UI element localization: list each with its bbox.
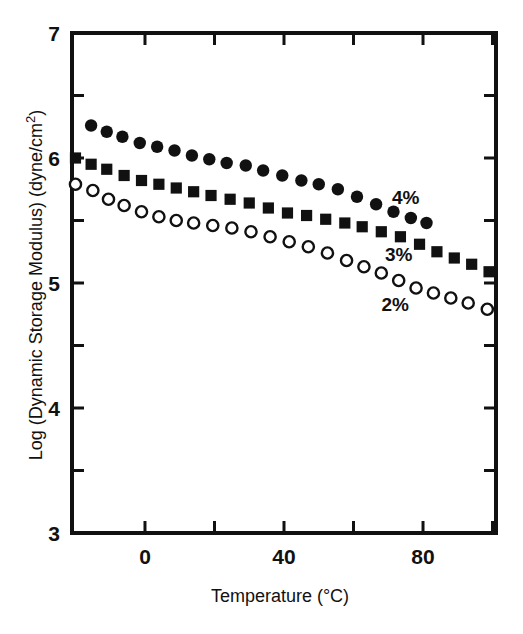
- data-point-filled-circle: [405, 212, 417, 224]
- data-point-filled-square: [86, 159, 97, 170]
- data-point-filled-square: [205, 190, 216, 201]
- data-point-open-circle: [87, 185, 98, 196]
- data-point-filled-circle: [332, 183, 344, 195]
- data-point-open-circle: [428, 287, 439, 298]
- data-point-filled-circle: [370, 198, 382, 210]
- data-point-open-circle: [153, 211, 164, 222]
- y-axis-title: Log (Dynamic Storage Modulus) (dyne/cm2): [23, 110, 46, 460]
- data-point-filled-square: [282, 207, 293, 218]
- data-point-open-circle: [393, 275, 404, 286]
- data-point-open-circle: [303, 241, 314, 252]
- x-tick-label: 80: [411, 545, 434, 568]
- x-tick-label: 40: [272, 545, 295, 568]
- data-point-filled-square: [225, 194, 236, 205]
- data-point-filled-square: [153, 179, 164, 190]
- data-point-filled-square: [449, 252, 460, 263]
- data-point-filled-square: [136, 175, 147, 186]
- data-point-open-circle: [376, 267, 387, 278]
- data-point-filled-square: [414, 239, 425, 250]
- data-point-filled-circle: [134, 137, 146, 149]
- data-point-filled-square: [431, 246, 442, 257]
- label-4-percent: 4%: [392, 187, 420, 208]
- data-point-filled-square: [244, 197, 255, 208]
- data-point-open-circle: [284, 236, 295, 247]
- data-point-open-circle: [482, 304, 493, 315]
- y-tick-label: 7: [48, 22, 60, 45]
- data-point-open-circle: [70, 179, 81, 190]
- y-axis-title-group: Log (Dynamic Storage Modulus) (dyne/cm2): [23, 110, 46, 460]
- chart-figure: 04080 76543 4%3%2% Temperature (°C) Log …: [0, 0, 523, 634]
- data-point-filled-circle: [313, 178, 325, 190]
- data-point-open-circle: [341, 255, 352, 266]
- data-point-filled-square: [171, 182, 182, 193]
- label-3-percent: 3%: [385, 244, 413, 265]
- data-point-filled-square: [301, 210, 312, 221]
- y-tick-label: 4: [48, 397, 60, 420]
- data-point-open-circle: [245, 226, 256, 237]
- data-point-filled-circle: [186, 149, 198, 161]
- data-point-open-circle: [264, 231, 275, 242]
- data-point-filled-circle: [101, 126, 113, 138]
- data-point-filled-square: [376, 226, 387, 237]
- data-point-filled-square: [119, 170, 130, 181]
- data-point-filled-circle: [276, 169, 288, 181]
- data-point-open-circle: [358, 261, 369, 272]
- data-point-filled-circle: [203, 153, 215, 165]
- data-point-open-circle: [226, 222, 237, 233]
- y-tick-label: 6: [48, 147, 60, 170]
- data-point-open-circle: [463, 297, 474, 308]
- data-point-open-circle: [103, 194, 114, 205]
- data-point-filled-circle: [240, 159, 252, 171]
- data-point-filled-square: [263, 202, 274, 213]
- data-point-filled-circle: [220, 157, 232, 169]
- data-point-filled-square: [483, 266, 494, 277]
- data-point-open-circle: [136, 206, 147, 217]
- data-point-filled-circle: [151, 141, 163, 153]
- y-axis-title-tail: ): [26, 110, 46, 116]
- storage-modulus-scatter-chart: 04080 76543 4%3%2% Temperature (°C) Log …: [0, 0, 523, 634]
- data-point-filled-square: [339, 217, 350, 228]
- data-point-filled-circle: [351, 191, 363, 203]
- label-2-percent: 2%: [381, 294, 409, 315]
- x-axis-title: Temperature (°C): [211, 586, 349, 606]
- data-point-filled-circle: [85, 119, 97, 131]
- data-point-filled-square: [466, 259, 477, 270]
- data-point-filled-circle: [295, 174, 307, 186]
- data-point-open-circle: [171, 215, 182, 226]
- data-point-filled-square: [357, 221, 368, 232]
- data-point-filled-square: [188, 186, 199, 197]
- data-point-open-circle: [410, 282, 421, 293]
- data-point-open-circle: [119, 200, 130, 211]
- data-point-filled-square: [101, 164, 112, 175]
- data-point-filled-circle: [168, 144, 180, 156]
- y-axis-title-exponent: 2: [23, 116, 38, 123]
- data-point-filled-square: [70, 152, 81, 163]
- data-point-open-circle: [322, 247, 333, 258]
- data-point-open-circle: [445, 292, 456, 303]
- data-point-filled-circle: [116, 131, 128, 143]
- y-axis-title-main: Log (Dynamic Storage Modulus) (dyne/cm: [26, 123, 46, 460]
- data-point-filled-square: [395, 231, 406, 242]
- y-tick-label: 3: [48, 522, 60, 545]
- data-point-filled-square: [320, 214, 331, 225]
- x-tick-label: 0: [139, 545, 151, 568]
- data-point-open-circle: [188, 217, 199, 228]
- data-point-filled-circle: [420, 217, 432, 229]
- data-point-filled-circle: [257, 164, 269, 176]
- data-point-open-circle: [207, 220, 218, 231]
- y-tick-label: 5: [48, 272, 60, 295]
